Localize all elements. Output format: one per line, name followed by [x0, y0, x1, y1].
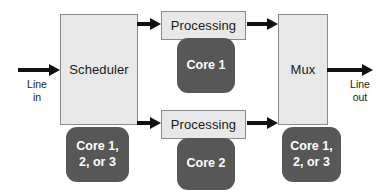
core-block-bottom-line1: Core 2 — [187, 156, 226, 171]
core-block-mux-line2: 2, or 3 — [290, 155, 332, 170]
core-block-bottom-text: Core 2 — [187, 156, 226, 171]
line-out-label-line2: out — [339, 91, 381, 104]
core-block-top-line1: Core 1 — [187, 58, 226, 73]
scheduler-block: Scheduler — [60, 14, 138, 125]
core-block-scheduler-line2: 2, or 3 — [76, 155, 118, 170]
core-block-top-text: Core 1 — [187, 58, 226, 73]
top-to-mux-arrow-head — [267, 18, 278, 30]
scheduler-block-label: Scheduler — [69, 62, 128, 77]
processing-top-block: Processing — [161, 11, 246, 40]
line-in-label-line1: Line — [15, 78, 59, 91]
core-block-top: Core 1 — [177, 38, 235, 93]
core-block-mux: Core 1, 2, or 3 — [282, 127, 341, 182]
input-arrow-head — [49, 64, 60, 76]
input-arrow-shaft — [18, 68, 50, 72]
core-block-bottom: Core 2 — [177, 138, 235, 190]
top-to-mux-arrow-shaft — [247, 22, 268, 26]
output-arrow-shaft — [327, 68, 363, 72]
processing-bottom-block-label: Processing — [171, 117, 236, 132]
line-out-label-line1: Line — [339, 78, 381, 91]
mux-block-label: Mux — [291, 62, 316, 77]
output-arrow-head — [362, 64, 373, 76]
processing-top-block-label: Processing — [171, 18, 236, 33]
bottom-to-mux-arrow-shaft — [247, 121, 268, 125]
core-block-mux-line1: Core 1, — [290, 139, 332, 154]
scheduler-to-top-arrow-head — [150, 18, 161, 30]
bottom-to-mux-arrow-head — [267, 117, 278, 129]
core-block-scheduler: Core 1, 2, or 3 — [66, 127, 129, 182]
scheduler-to-top-arrow-shaft — [137, 22, 151, 26]
core-block-scheduler-text: Core 1, 2, or 3 — [76, 139, 118, 170]
core-block-scheduler-line1: Core 1, — [76, 139, 118, 154]
scheduler-to-bottom-arrow-shaft — [137, 121, 151, 125]
scheduler-to-bottom-arrow-head — [150, 117, 161, 129]
mux-block: Mux — [278, 14, 328, 125]
core-block-mux-text: Core 1, 2, or 3 — [290, 139, 332, 170]
line-in-label-line2: in — [15, 91, 59, 104]
line-out-label: Line out — [339, 78, 381, 105]
diagram-canvas: Core 1, 2, or 3 Core 1 Core 2 Core 1, 2,… — [0, 0, 391, 196]
line-in-label: Line in — [15, 78, 59, 105]
processing-bottom-block: Processing — [161, 110, 246, 139]
